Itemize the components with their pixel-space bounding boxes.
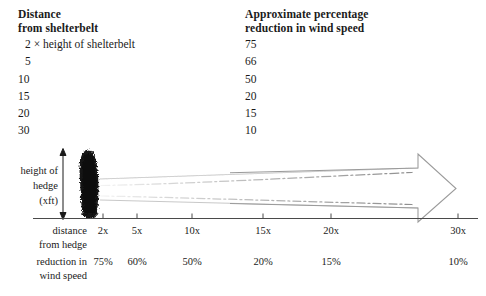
distance-row-label: distance from hedge	[2, 224, 87, 252]
hedge-height-label: height of hedge (xft)	[0, 163, 58, 208]
hedge-label-line2: hedge	[0, 178, 58, 193]
hedge-label-line1: height of	[0, 163, 58, 178]
reduction-header-line1: Approximate percentage	[245, 8, 368, 22]
distance-row-label-line2: from hedge	[2, 238, 87, 252]
distance-column-rows: 2 × height of shelterbelt 5 10 15 20 30	[18, 36, 135, 139]
reduction-value-2x: 75%	[93, 256, 112, 267]
table-row: 15	[245, 105, 368, 122]
axis-label-10x: 10x	[184, 225, 200, 236]
table-row: 15	[18, 88, 135, 105]
axis-ticks	[103, 214, 458, 219]
ground-axis	[33, 214, 478, 219]
table-row: 20	[245, 88, 368, 105]
hedge-shape	[80, 149, 99, 218]
reduction-row-label-line1: reduction in	[2, 255, 87, 269]
reduction-column: Approximate percentage reduction in wind…	[245, 8, 368, 139]
reduction-value-30x: 10%	[448, 256, 467, 267]
arrow-head	[230, 154, 456, 222]
table-row: 2 × height of shelterbelt	[18, 36, 135, 53]
reduction-value-15x: 20%	[253, 256, 272, 267]
data-table: Distance from shelterbelt 2 × height of …	[0, 0, 486, 148]
distance-header-line1: Distance	[18, 8, 135, 22]
table-row: 66	[245, 53, 368, 70]
hedge-texture	[82, 154, 96, 213]
table-row: 50	[245, 71, 368, 88]
axis-label-15x: 15x	[255, 225, 271, 236]
reduction-value-5x: 60%	[127, 256, 146, 267]
axis-label-5x: 5x	[132, 225, 143, 236]
distance-column-header: Distance from shelterbelt	[18, 8, 135, 35]
table-row: 20	[18, 105, 135, 122]
table-row: 75	[245, 36, 368, 53]
wind-arrow	[100, 154, 456, 222]
reduction-header-line2: reduction in wind speed	[245, 22, 368, 36]
wind-stream-upper	[101, 173, 412, 186]
table-row: 5	[18, 53, 135, 70]
table-row: 10	[18, 71, 135, 88]
height-measure-arrow	[60, 149, 66, 220]
distance-column: Distance from shelterbelt 2 × height of …	[18, 8, 135, 139]
hedge-label-line3: (xft)	[0, 193, 58, 208]
reduction-row-label-line2: wind speed	[2, 269, 87, 283]
reduction-value-20x: 15%	[321, 256, 340, 267]
wind-stream-lower	[101, 196, 412, 205]
reduction-row-label: reduction in wind speed	[2, 255, 87, 283]
axis-label-30x: 30x	[450, 225, 466, 236]
axis-label-2x: 2x	[98, 225, 109, 236]
reduction-column-header: Approximate percentage reduction in wind…	[245, 8, 368, 35]
distance-row-label-line1: distance	[2, 224, 87, 238]
reduction-value-10x: 50%	[182, 256, 201, 267]
shelterbelt-diagram: height of hedge (xft) distance from hedg…	[0, 146, 486, 296]
axis-label-20x: 20x	[323, 225, 339, 236]
reduction-column-rows: 75 66 50 20 15 10	[245, 36, 368, 139]
height-measure-arrowhead-up	[60, 149, 66, 156]
distance-header-line2: from shelterbelt	[18, 22, 135, 36]
table-row: 30	[18, 122, 135, 139]
table-row: 10	[245, 122, 368, 139]
